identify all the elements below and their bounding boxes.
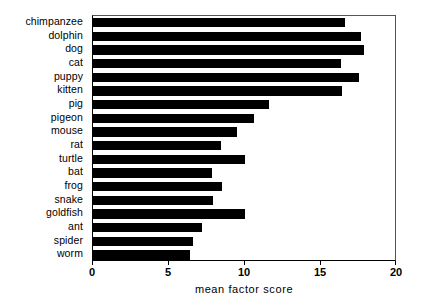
category-label: pigeon [0, 111, 88, 125]
x-tick-mark [395, 261, 396, 265]
bar-slot [93, 180, 397, 194]
plot-area [92, 15, 396, 261]
x-tick-label: 15 [314, 266, 326, 278]
category-label: worm [0, 247, 88, 261]
category-label: dolphin [0, 29, 88, 43]
category-label: ant [0, 220, 88, 234]
bar [93, 182, 222, 191]
category-label: goldfish [0, 206, 88, 220]
category-label: frog [0, 179, 88, 193]
bar-slot [93, 139, 397, 153]
bar-slot [93, 207, 397, 221]
x-tick-label: 20 [390, 266, 402, 278]
x-tick-mark [168, 261, 169, 265]
category-label: turtle [0, 152, 88, 166]
x-tick-label: 0 [89, 266, 95, 278]
bar [93, 168, 212, 177]
x-tick-label: 10 [238, 266, 250, 278]
bar [93, 141, 221, 150]
bar [93, 127, 237, 136]
bar-slot [93, 84, 397, 98]
category-label: bat [0, 165, 88, 179]
bar [93, 100, 269, 109]
category-axis: chimpanzeedolphindogcatpuppykittenpigpig… [0, 15, 88, 261]
category-label: cat [0, 56, 88, 70]
bar-slot [93, 57, 397, 71]
bar [93, 86, 342, 95]
category-label: chimpanzee [0, 15, 88, 29]
category-label: pig [0, 97, 88, 111]
bar-slot [93, 125, 397, 139]
bar [93, 73, 359, 82]
x-tick-mark [244, 261, 245, 265]
bar [93, 18, 345, 27]
bar [93, 45, 364, 54]
bar [93, 223, 202, 232]
x-axis-title: mean factor score [92, 283, 396, 295]
bar-slot [93, 221, 397, 235]
bar [93, 59, 341, 68]
bar-slot [93, 235, 397, 249]
bar [93, 32, 361, 41]
bar [93, 155, 245, 164]
category-label: kitten [0, 83, 88, 97]
bar-chart: chimpanzeedolphindogcatpuppykittenpigpig… [0, 0, 427, 306]
bar-slot [93, 248, 397, 262]
bar-slot [93, 43, 397, 57]
bar-slot [93, 153, 397, 167]
category-label: rat [0, 138, 88, 152]
bar-slot [93, 71, 397, 85]
category-label: spider [0, 234, 88, 248]
category-label: snake [0, 193, 88, 207]
bar-slot [93, 194, 397, 208]
bar-slot [93, 166, 397, 180]
x-tick-mark [320, 261, 321, 265]
x-tick-mark [92, 261, 93, 265]
bars-layer [93, 16, 397, 261]
category-label: mouse [0, 124, 88, 138]
bar [93, 250, 190, 259]
x-tick-label: 5 [165, 266, 171, 278]
category-label: dog [0, 42, 88, 56]
bar [93, 237, 193, 246]
category-label: puppy [0, 70, 88, 84]
bar [93, 196, 213, 205]
bar-slot [93, 16, 397, 30]
bar-slot [93, 30, 397, 44]
bar-slot [93, 112, 397, 126]
bar [93, 209, 245, 218]
bar-slot [93, 98, 397, 112]
bar [93, 114, 254, 123]
